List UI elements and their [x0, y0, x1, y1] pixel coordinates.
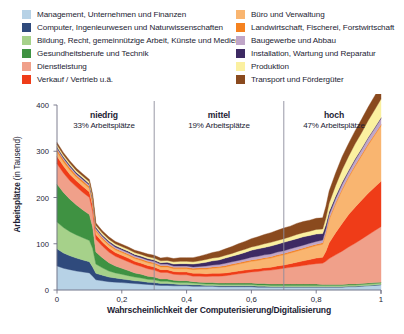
- legend-label-baugewerbe: Baugewerbe und Abbau: [251, 34, 336, 47]
- segment-sublabel-hoch: 47% Arbeitsplätze: [274, 121, 394, 130]
- legend-label-verkauf: Verkauf / Vertrieb u.ä.: [37, 73, 113, 86]
- x-tick-label-2: 0,4: [175, 295, 199, 304]
- legend-item-bildung[interactable]: Bildung, Recht, gemeinnützige Arbeit, Kü…: [22, 34, 240, 47]
- legend-label-bildung: Bildung, Recht, gemeinnützige Arbeit, Kü…: [37, 34, 240, 47]
- legend-column-right: Büro und VerwaltungLandwirtschaft, Fisch…: [236, 8, 394, 87]
- legend-item-installation[interactable]: Installation, Wartung und Reparatur: [236, 47, 394, 60]
- chart-page: Management, Unternehmen und FinanzenComp…: [0, 0, 404, 334]
- legend-swatch-transport: [236, 75, 245, 84]
- segment-label-mittel: mittel19% Arbeitsplätze: [159, 110, 279, 130]
- legend-label-buero: Büro und Verwaltung: [251, 8, 325, 21]
- y-tick-label-3: 300: [19, 147, 49, 156]
- legend-item-gesundheit[interactable]: Gesundheitsberufe und Technik: [22, 47, 240, 60]
- legend-item-computer[interactable]: Computer, Ingenieurwesen und Naturwissen…: [22, 21, 240, 34]
- legend-column-left: Management, Unternehmen und FinanzenComp…: [22, 8, 240, 87]
- y-tick-label-0: 0: [19, 286, 49, 295]
- legend-swatch-gesundheit: [22, 49, 31, 58]
- legend-item-dienstleistung[interactable]: Dienstleistung: [22, 60, 240, 73]
- legend-swatch-installation: [236, 49, 245, 58]
- legend-label-computer: Computer, Ingenieurwesen und Naturwissen…: [37, 21, 223, 34]
- x-tick-label-1: 0,2: [110, 295, 134, 304]
- legend-swatch-bildung: [22, 36, 31, 45]
- segment-name-mittel: mittel: [159, 110, 279, 120]
- legend-item-landwirtschaft[interactable]: Landwirtschaft, Fischerei, Forstwirtscha…: [236, 21, 394, 34]
- y-axis-title: Arbeitsplätze (in Tausend): [13, 110, 22, 260]
- x-tick-label-3: 0,6: [239, 295, 263, 304]
- chart-legend: Management, Unternehmen und FinanzenComp…: [0, 0, 404, 94]
- y-axis-title-main: Arbeitsplätze: [13, 182, 22, 232]
- segment-sublabel-niedrig: 33% Arbeitsplätze: [44, 121, 164, 130]
- segment-label-hoch: hoch47% Arbeitsplätze: [274, 110, 394, 130]
- legend-item-verkauf[interactable]: Verkauf / Vertrieb u.ä.: [22, 73, 240, 86]
- segment-label-niedrig: niedrig33% Arbeitsplätze: [44, 110, 164, 130]
- legend-swatch-buero: [236, 10, 245, 19]
- x-axis-title: Wahrscheinlichkeit der Computerisierung/…: [57, 305, 381, 315]
- legend-label-management: Management, Unternehmen und Finanzen: [37, 8, 186, 21]
- plot-area: Arbeitsplätze (in Tausend) Wahrscheinlic…: [0, 94, 404, 334]
- legend-swatch-verkauf: [22, 75, 31, 84]
- legend-swatch-baugewerbe: [236, 36, 245, 45]
- legend-label-dienstleistung: Dienstleistung: [37, 60, 87, 73]
- x-tick-label-4: 0,8: [304, 295, 328, 304]
- y-tick-label-4: 400: [19, 101, 49, 110]
- legend-label-produktion: Produktion: [251, 60, 289, 73]
- legend-item-produktion[interactable]: Produktion: [236, 60, 394, 73]
- y-tick-label-2: 200: [19, 193, 49, 202]
- x-tick-label-0: 0: [45, 295, 69, 304]
- legend-swatch-management: [22, 10, 31, 19]
- legend-swatch-produktion: [236, 62, 245, 71]
- legend-swatch-dienstleistung: [22, 62, 31, 71]
- segment-sublabel-mittel: 19% Arbeitsplätze: [159, 121, 279, 130]
- legend-swatch-landwirtschaft: [236, 23, 245, 32]
- segment-name-hoch: hoch: [274, 110, 394, 120]
- legend-label-transport: Transport und Fördergüter: [251, 73, 344, 86]
- y-tick-label-1: 100: [19, 239, 49, 248]
- legend-item-management[interactable]: Management, Unternehmen und Finanzen: [22, 8, 240, 21]
- legend-label-installation: Installation, Wartung und Reparatur: [251, 47, 376, 60]
- segment-name-niedrig: niedrig: [44, 110, 164, 120]
- y-axis-title-unit: (in Tausend): [13, 136, 22, 180]
- x-tick-label-5: 1: [369, 295, 393, 304]
- legend-label-gesundheit: Gesundheitsberufe und Technik: [37, 47, 148, 60]
- legend-label-landwirtschaft: Landwirtschaft, Fischerei, Forstwirtscha…: [251, 21, 394, 34]
- legend-item-baugewerbe[interactable]: Baugewerbe und Abbau: [236, 34, 394, 47]
- legend-swatch-computer: [22, 23, 31, 32]
- legend-item-buero[interactable]: Büro und Verwaltung: [236, 8, 394, 21]
- legend-item-transport[interactable]: Transport und Fördergüter: [236, 73, 394, 86]
